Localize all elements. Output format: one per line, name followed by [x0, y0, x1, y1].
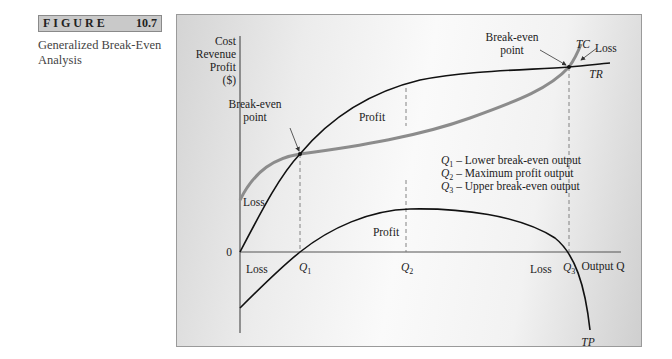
- legend-item-q3: Q3 – Upper break-even output: [441, 180, 581, 195]
- loss-lower-right-label: Loss: [530, 263, 552, 275]
- svg-text:Cost: Cost: [215, 35, 237, 47]
- tc-label-visible: TC: [576, 38, 590, 50]
- break-even-point-lower: [298, 152, 302, 156]
- tp-label: TP: [581, 336, 594, 348]
- svg-text:point: point: [243, 111, 267, 124]
- svg-text:point: point: [500, 44, 524, 57]
- loss-upper-right-label: Loss: [595, 42, 617, 54]
- y-axis-label: Cost Revenue Profit ($): [196, 35, 237, 87]
- x-axis-label: Output Q: [581, 260, 625, 273]
- svg-text:Break-even: Break-even: [229, 98, 282, 110]
- svg-text:Revenue: Revenue: [196, 48, 236, 60]
- break-even-lower-arrow: [290, 128, 299, 151]
- break-even-point-upper: [567, 65, 571, 69]
- q2-tick: Q2: [401, 261, 413, 276]
- profit-lower-label: Profit: [373, 226, 400, 238]
- svg-text:Break-even: Break-even: [486, 31, 539, 43]
- origin-label: 0: [226, 246, 232, 258]
- profit-upper-label: Profit: [359, 111, 386, 123]
- loss-upper-left-label: Loss: [243, 196, 265, 208]
- break-even-lower-label: Break-even point: [229, 98, 282, 124]
- q1-tick: Q1: [299, 261, 311, 276]
- break-even-upper-arrow: [540, 50, 566, 65]
- break-even-upper-label: Break-even point: [486, 31, 539, 57]
- tr-label: TR: [589, 68, 602, 80]
- legend: Q1 – Lower break-even output Q2 – Maximu…: [441, 154, 582, 195]
- loss-lower-left-label: Loss: [246, 263, 268, 275]
- svg-text:Profit: Profit: [210, 61, 237, 73]
- break-even-diagram: Cost Revenue Profit ($) 0 Output Q Break…: [0, 0, 672, 359]
- svg-text:($): ($): [223, 74, 237, 87]
